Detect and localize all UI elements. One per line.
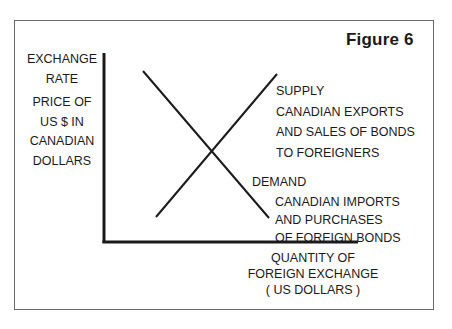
demand-label: CANADIAN IMPORTS AND PURCHASES OF FOREIG… [275,193,401,247]
demand-description-line: OF FOREIGN BONDS [275,229,401,247]
x-axis-label: QUANTITY OF FOREIGN EXCHANGE ( US DOLLAR… [228,250,398,298]
demand-title: DEMAND [252,175,306,189]
demand-description-line: CANADIAN IMPORTS [275,193,401,211]
supply-curve [156,74,277,217]
x-axis-label-line: FOREIGN EXCHANGE [228,266,398,282]
demand-curve [143,71,269,218]
demand-description-line: AND PURCHASES [275,211,401,229]
supply-description-line: AND SALES OF BONDS [276,122,415,143]
supply-description-line: TO FOREIGNERS [276,143,415,164]
x-axis-label-line: QUANTITY OF [228,250,398,266]
supply-title: SUPPLY [276,81,415,102]
supply-label: SUPPLY CANADIAN EXPORTS AND SALES OF BON… [276,81,415,163]
x-axis-label-line: ( US DOLLARS ) [228,282,398,298]
supply-description-line: CANADIAN EXPORTS [276,102,415,123]
